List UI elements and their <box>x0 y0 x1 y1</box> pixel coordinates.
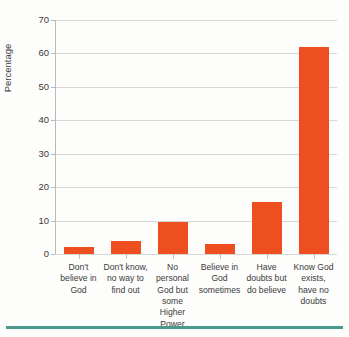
x-tick-mark <box>79 254 80 259</box>
x-axis-tick-label: Believe in God sometimes <box>196 262 243 296</box>
y-tick-label: 0 <box>44 249 49 259</box>
bar-slot <box>55 20 102 254</box>
bar <box>64 247 94 254</box>
bar <box>252 202 282 254</box>
bar-slot <box>196 20 243 254</box>
x-tick-mark <box>314 254 315 259</box>
x-axis-tick-label: Don't believe in God <box>55 262 102 296</box>
bar-slot <box>290 20 337 254</box>
x-axis-tick-label: Don't know, no way to find out <box>102 262 149 296</box>
bar <box>205 244 235 254</box>
bar-slot <box>243 20 290 254</box>
y-tick-label: 30 <box>38 149 49 159</box>
y-tick-label: 40 <box>38 116 49 126</box>
x-axis-tick-label: Have doubts but do believe <box>243 262 290 296</box>
y-tick-label: 60 <box>38 49 49 59</box>
bars-layer <box>55 20 337 254</box>
y-tick-label: 10 <box>38 216 49 226</box>
bar-chart-figure: Percentage 010203040506070 Don't believe… <box>0 0 349 337</box>
x-axis-tick-label: No personal God but some Higher Power <box>149 262 196 330</box>
bar <box>111 241 141 254</box>
bar <box>299 47 329 254</box>
x-tick-mark <box>220 254 221 259</box>
x-axis-tick-label: Know God exists, have no doubts <box>290 262 337 307</box>
y-tick-label: 50 <box>38 82 49 92</box>
gridline <box>55 254 337 255</box>
x-tick-mark <box>267 254 268 259</box>
x-tick-mark <box>126 254 127 259</box>
y-tick-label: 20 <box>38 182 49 192</box>
bar <box>158 222 188 254</box>
x-tick-mark <box>173 254 174 259</box>
y-tick-mark <box>51 254 55 255</box>
bar-slot <box>102 20 149 254</box>
y-tick-label: 70 <box>38 15 49 25</box>
bottom-decorative-rule <box>6 326 343 329</box>
plot-area: 010203040506070 <box>55 20 337 254</box>
bar-slot <box>149 20 196 254</box>
y-axis-title: Percentage <box>2 28 13 108</box>
x-axis-labels: Don't believe in GodDon't know, no way t… <box>55 262 337 330</box>
